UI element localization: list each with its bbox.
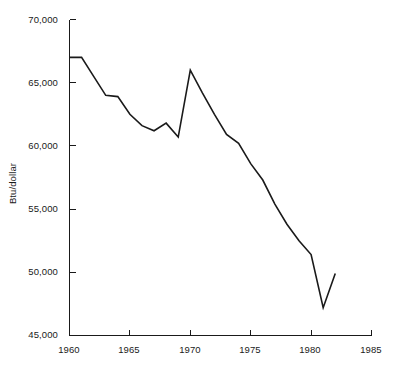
chart-container: Btu/dollar 70,000 65,000 60,000 55,000 5… (0, 0, 399, 370)
plot-area (0, 0, 399, 370)
x-axis-ticks (70, 330, 372, 336)
data-series-line (70, 57, 336, 307)
y-axis-ticks (70, 20, 76, 336)
